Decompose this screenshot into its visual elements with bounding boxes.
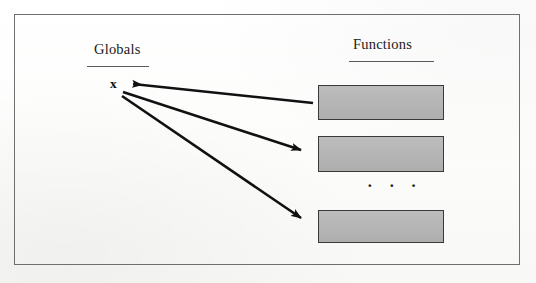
functions-ellipsis: · · · <box>367 176 423 196</box>
function-box-3 <box>318 210 444 243</box>
function-box-1 <box>318 85 444 120</box>
function-box-2 <box>318 136 444 172</box>
globals-heading-underline <box>87 66 149 67</box>
functions-heading-underline <box>349 61 434 62</box>
global-variable-x: x <box>110 76 117 92</box>
functions-column-heading: Functions <box>353 36 412 53</box>
figure-canvas: Globals x Functions · · · <box>0 0 536 283</box>
figure-outer-border <box>14 14 520 265</box>
globals-column-heading: Globals <box>94 41 141 58</box>
